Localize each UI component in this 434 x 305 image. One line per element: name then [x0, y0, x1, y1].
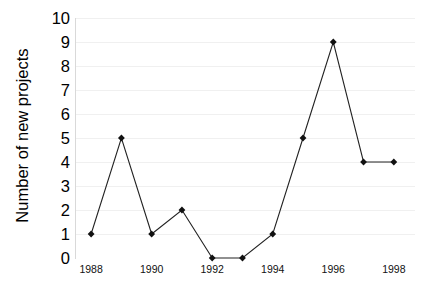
data-series [76, 18, 415, 258]
x-tick-label: 1998 [382, 264, 405, 275]
data-point-marker [118, 135, 125, 142]
x-tick-label: 1988 [79, 264, 102, 275]
data-point-marker [300, 135, 307, 142]
y-tick-label: 3 [38, 178, 70, 195]
y-tick-label: 1 [38, 226, 70, 243]
data-point-marker [330, 39, 337, 46]
line-chart: Number of new projects 012345678910 1988… [0, 0, 434, 305]
data-point-marker [88, 231, 95, 238]
x-axis-tick-labels: 198819901992199419961998 [76, 264, 415, 288]
y-axis-tick-labels: 012345678910 [38, 18, 70, 258]
y-tick-label: 7 [38, 82, 70, 99]
y-tick-label: 6 [38, 106, 70, 123]
plot-area [76, 18, 415, 258]
y-tick-label: 5 [38, 130, 70, 147]
x-tick-label: 1990 [140, 264, 163, 275]
x-tick-label: 1994 [261, 264, 284, 275]
data-point-marker [390, 159, 397, 166]
y-tick-label: 9 [38, 34, 70, 51]
data-point-marker [209, 255, 216, 262]
y-tick-label: 10 [38, 10, 70, 27]
y-tick-label: 2 [38, 202, 70, 219]
x-tick-label: 1996 [322, 264, 345, 275]
y-tick-label: 4 [38, 154, 70, 171]
x-tick-label: 1992 [201, 264, 224, 275]
data-point-marker [360, 159, 367, 166]
y-tick-label: 0 [38, 250, 70, 267]
y-tick-label: 8 [38, 58, 70, 75]
series-line [91, 42, 394, 258]
y-axis-title-text: Number of new projects [13, 48, 32, 222]
